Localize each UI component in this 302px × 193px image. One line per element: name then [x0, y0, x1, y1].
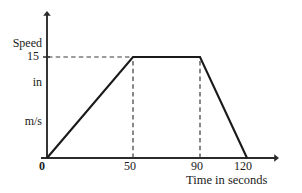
y-axis-title: Speed in m/s: [2, 11, 42, 153]
y-axis-title-line-1: Speed: [2, 37, 42, 50]
speed-time-graph-figure: Speed in m/s 15 0 50 90 120 Time in seco…: [0, 0, 302, 193]
x-axis-title: Time in seconds: [186, 174, 268, 188]
y-axis-title-line-3: m/s: [2, 115, 42, 128]
y-axis-title-line-2: in: [2, 76, 42, 89]
x-tick-label-120: 120: [234, 160, 252, 173]
chart-plot-area: [0, 0, 302, 193]
y-tick-label-15: 15: [27, 50, 39, 63]
x-tick-label-0: 0: [39, 160, 45, 173]
x-tick-label-50: 50: [124, 160, 136, 173]
speed-time-curve: [47, 57, 247, 158]
x-tick-label-90: 90: [191, 160, 203, 173]
